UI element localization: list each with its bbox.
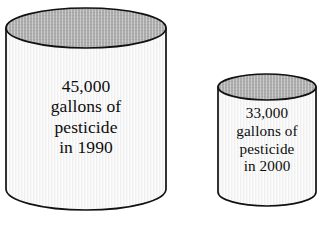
cylinder-left-label-line-1: 45,000: [6, 76, 166, 96]
cylinder-right-label-line-1: 33,000: [218, 104, 316, 122]
cylinder-left-label-line-2: gallons of: [6, 96, 166, 116]
cylinder-left-label-line-4: in 1990: [6, 137, 166, 157]
cylinder-right-label-line-4: in 2000: [218, 157, 316, 175]
cylinder-left-label: 45,000 gallons of pesticide in 1990: [6, 76, 166, 158]
figure-container: 45,000 gallons of pesticide in 1990 33,0…: [0, 0, 332, 225]
cylinder-right-label-line-2: gallons of: [218, 122, 316, 140]
cylinder-right-top-ellipse: [218, 74, 316, 100]
cylinder-right-label-line-3: pesticide: [218, 140, 316, 158]
cylinder-left-label-line-3: pesticide: [6, 117, 166, 137]
cylinder-left-top-ellipse: [6, 8, 166, 48]
cylinder-right-label: 33,000 gallons of pesticide in 2000: [218, 104, 316, 175]
